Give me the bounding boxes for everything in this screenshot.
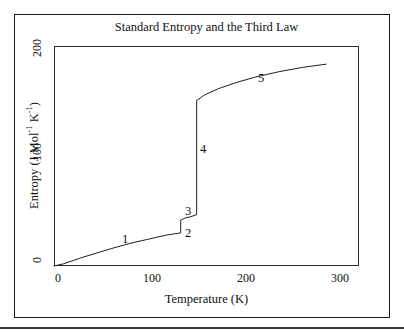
annotation-label-5: 5 (258, 72, 264, 85)
annotation-label-4: 4 (200, 143, 206, 156)
annotation-label-3: 3 (185, 205, 191, 218)
entropy-curve-svg (0, 0, 404, 332)
footer-divider (0, 327, 404, 329)
annotation-label-2: 2 (185, 227, 191, 240)
figure-page: Standard Entropy and the Third Law 0 100… (0, 0, 404, 332)
annotation-label-1: 1 (122, 233, 128, 246)
